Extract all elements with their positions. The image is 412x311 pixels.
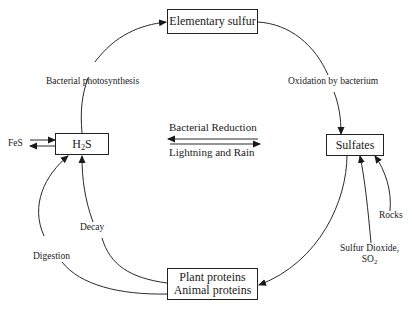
label-fes: FeS xyxy=(8,138,23,149)
arrow-rocks xyxy=(375,156,390,211)
arrow-so2 xyxy=(360,156,371,243)
node-label: Sulfates xyxy=(336,139,375,152)
arrow-oxidation xyxy=(258,22,328,75)
label-bacterial-photosynthesis: Bacterial photosynthesis xyxy=(46,76,139,87)
label-decay: Decay xyxy=(80,222,104,233)
node-sulfates: Sulfates xyxy=(326,134,384,156)
node-h2s: H2S xyxy=(55,133,109,155)
node-proteins: Plant proteins Animal proteins xyxy=(167,268,258,300)
arrow-decay xyxy=(102,238,167,283)
arrow-sulfates-to-proteins xyxy=(259,155,347,285)
node-label-animal: Animal proteins xyxy=(174,284,252,297)
label-lightning-rain: Lightning and Rain xyxy=(169,146,255,158)
node-label: Elementary sulfur xyxy=(169,15,255,28)
node-label: H2S xyxy=(72,138,92,151)
label-rocks: Rocks xyxy=(379,210,403,221)
label-digestion: Digestion xyxy=(33,251,70,262)
node-elementary-sulfur: Elementary sulfur xyxy=(167,9,258,34)
label-bacterial-reduction: Bacterial Reduction xyxy=(169,121,257,133)
label-oxidation: Oxidation by bacterium xyxy=(288,76,378,87)
label-sulfur-dioxide: Sulfur Dioxide, SO2 xyxy=(340,243,399,265)
arrow-digestion xyxy=(62,262,167,294)
